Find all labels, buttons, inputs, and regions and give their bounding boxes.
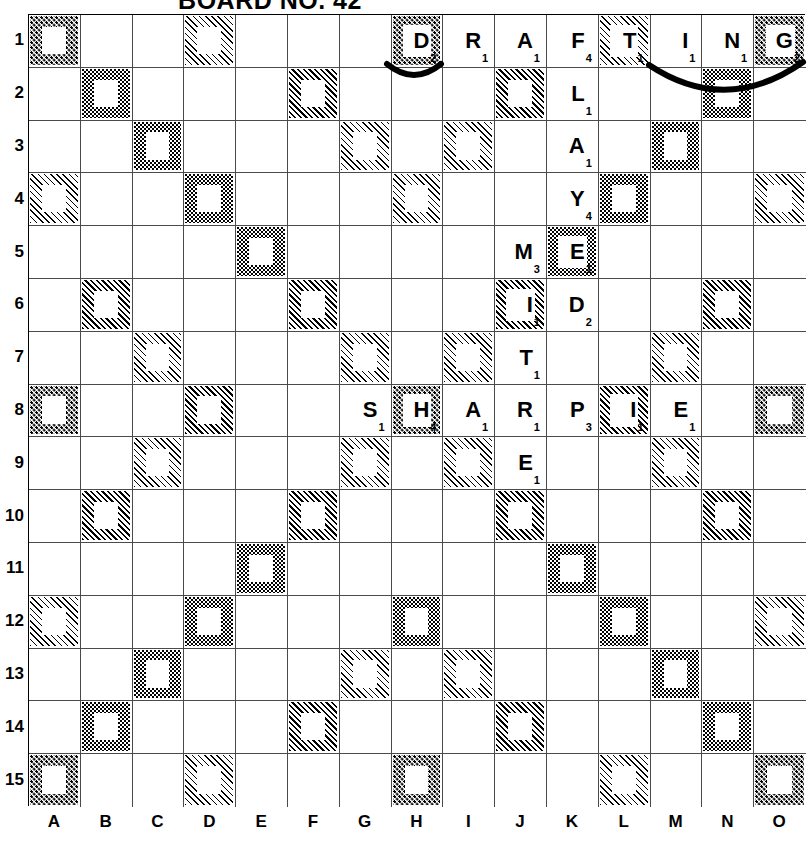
board-square-c13[interactable] xyxy=(133,649,185,702)
board-square-c10[interactable] xyxy=(133,490,185,543)
board-square-j4[interactable] xyxy=(495,173,547,226)
board-square-e6[interactable] xyxy=(236,279,288,332)
board-square-l6[interactable] xyxy=(599,279,651,332)
board-square-b13[interactable] xyxy=(81,649,133,702)
board-square-j10[interactable] xyxy=(495,490,547,543)
board-square-b2[interactable] xyxy=(81,68,133,121)
board-square-g7[interactable] xyxy=(340,332,392,385)
board-square-j1[interactable]: A1 xyxy=(495,15,547,68)
board-square-e9[interactable] xyxy=(236,437,288,490)
board-square-f4[interactable] xyxy=(288,173,340,226)
board-square-k10[interactable] xyxy=(547,490,599,543)
board-square-n3[interactable] xyxy=(702,121,754,174)
board-square-k12[interactable] xyxy=(547,596,599,649)
board-square-k11[interactable] xyxy=(547,543,599,596)
board-square-i9[interactable] xyxy=(443,437,495,490)
board-square-h5[interactable] xyxy=(392,226,444,279)
board-square-c15[interactable] xyxy=(133,754,185,807)
board-square-f12[interactable] xyxy=(288,596,340,649)
board-square-j9[interactable]: E1 xyxy=(495,437,547,490)
board-square-m13[interactable] xyxy=(651,649,703,702)
tile-k1[interactable]: F4 xyxy=(547,15,598,67)
board-square-i12[interactable] xyxy=(443,596,495,649)
tile-j9[interactable]: E1 xyxy=(495,437,546,489)
board-square-b1[interactable] xyxy=(81,15,133,68)
board-square-k1[interactable]: F4 xyxy=(547,15,599,68)
board-square-a8[interactable] xyxy=(29,385,81,438)
board-square-m11[interactable] xyxy=(651,543,703,596)
board-square-f14[interactable] xyxy=(288,701,340,754)
board-square-l11[interactable] xyxy=(599,543,651,596)
board-square-o10[interactable] xyxy=(754,490,806,543)
board-square-c6[interactable] xyxy=(133,279,185,332)
board-square-d10[interactable] xyxy=(184,490,236,543)
board-square-i5[interactable] xyxy=(443,226,495,279)
board-square-a15[interactable] xyxy=(29,754,81,807)
board-square-j7[interactable]: T1 xyxy=(495,332,547,385)
tile-k6[interactable]: D2 xyxy=(547,279,598,331)
board-square-n6[interactable] xyxy=(702,279,754,332)
board-square-b8[interactable] xyxy=(81,385,133,438)
board-square-b6[interactable] xyxy=(81,279,133,332)
board-square-f3[interactable] xyxy=(288,121,340,174)
board-square-b11[interactable] xyxy=(81,543,133,596)
board-square-b9[interactable] xyxy=(81,437,133,490)
board-square-d3[interactable] xyxy=(184,121,236,174)
board-square-c3[interactable] xyxy=(133,121,185,174)
board-square-b10[interactable] xyxy=(81,490,133,543)
board-square-d8[interactable] xyxy=(184,385,236,438)
board-square-a5[interactable] xyxy=(29,226,81,279)
board-square-n10[interactable] xyxy=(702,490,754,543)
board-square-c2[interactable] xyxy=(133,68,185,121)
tile-n1[interactable]: N1 xyxy=(702,15,753,67)
board-square-a12[interactable] xyxy=(29,596,81,649)
board-square-n12[interactable] xyxy=(702,596,754,649)
board-square-o4[interactable] xyxy=(754,173,806,226)
tile-j1[interactable]: A1 xyxy=(495,15,546,67)
board-square-e1[interactable] xyxy=(236,15,288,68)
board-square-m8[interactable]: E1 xyxy=(651,385,703,438)
board-square-b15[interactable] xyxy=(81,754,133,807)
board-square-d13[interactable] xyxy=(184,649,236,702)
board-square-j12[interactable] xyxy=(495,596,547,649)
board-square-o7[interactable] xyxy=(754,332,806,385)
board-square-a7[interactable] xyxy=(29,332,81,385)
board-square-f8[interactable] xyxy=(288,385,340,438)
board-square-j6[interactable]: I1 xyxy=(495,279,547,332)
board-square-f2[interactable] xyxy=(288,68,340,121)
board-square-n9[interactable] xyxy=(702,437,754,490)
board-square-o1[interactable]: G2 xyxy=(754,15,806,68)
board-square-d4[interactable] xyxy=(184,173,236,226)
board-square-i7[interactable] xyxy=(443,332,495,385)
board-square-f15[interactable] xyxy=(288,754,340,807)
board-square-m9[interactable] xyxy=(651,437,703,490)
board-square-k7[interactable] xyxy=(547,332,599,385)
board-square-o14[interactable] xyxy=(754,701,806,754)
board-square-i3[interactable] xyxy=(443,121,495,174)
board-square-j8[interactable]: R1 xyxy=(495,385,547,438)
board-square-m5[interactable] xyxy=(651,226,703,279)
board-square-g3[interactable] xyxy=(340,121,392,174)
board-square-m10[interactable] xyxy=(651,490,703,543)
board-square-f13[interactable] xyxy=(288,649,340,702)
board-square-l13[interactable] xyxy=(599,649,651,702)
board-square-j5[interactable]: M3 xyxy=(495,226,547,279)
board-square-c4[interactable] xyxy=(133,173,185,226)
board-square-h13[interactable] xyxy=(392,649,444,702)
board-square-k5[interactable]: E1 xyxy=(547,226,599,279)
board-square-l12[interactable] xyxy=(599,596,651,649)
board-square-m2[interactable] xyxy=(651,68,703,121)
board-square-j15[interactable] xyxy=(495,754,547,807)
board-square-c8[interactable] xyxy=(133,385,185,438)
board-square-c1[interactable] xyxy=(133,15,185,68)
board-square-e15[interactable] xyxy=(236,754,288,807)
board-square-j11[interactable] xyxy=(495,543,547,596)
board-square-o12[interactable] xyxy=(754,596,806,649)
board-square-b14[interactable] xyxy=(81,701,133,754)
board-square-c11[interactable] xyxy=(133,543,185,596)
board-square-l10[interactable] xyxy=(599,490,651,543)
board-square-e2[interactable] xyxy=(236,68,288,121)
board-square-l7[interactable] xyxy=(599,332,651,385)
board-square-g8[interactable]: S1 xyxy=(340,385,392,438)
board-square-k15[interactable] xyxy=(547,754,599,807)
